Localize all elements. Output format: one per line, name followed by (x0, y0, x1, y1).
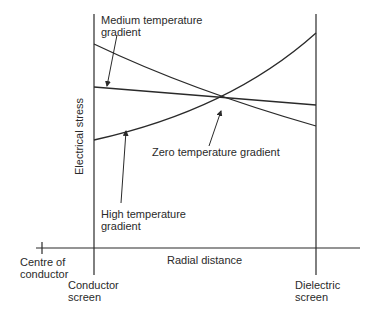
label-dielectric-screen: Dielectric screen (295, 279, 340, 303)
arrow-high (121, 131, 126, 203)
label-medium-gradient: Medium temperature gradient (101, 14, 203, 38)
label-high-gradient: High temperature gradient (101, 208, 186, 232)
label-conductor-screen: Conductor screen (68, 279, 119, 303)
label-zero-gradient: Zero temperature gradient (152, 146, 280, 158)
label-centre-of-conductor: Centre of conductor (20, 256, 68, 280)
curve-zero-gradient (94, 44, 316, 126)
y-axis-label: Electrical stress (73, 98, 85, 175)
arrow-zero (209, 111, 221, 146)
arrow-medium (107, 35, 117, 86)
x-axis-label: Radial distance (167, 254, 242, 266)
curve-high-gradient (94, 33, 316, 140)
